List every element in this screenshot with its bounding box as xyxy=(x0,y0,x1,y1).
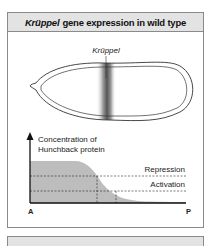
y-axis-arrow-icon xyxy=(27,132,34,140)
y-axis-label-line1: Concentration of xyxy=(38,135,97,144)
kruppel-label: Krüppel xyxy=(92,46,120,55)
y-axis-label-line2: Hunchback protein xyxy=(38,145,105,154)
embryo-illustration xyxy=(30,56,193,126)
activation-label: Activation xyxy=(150,180,185,189)
posterior-label: P xyxy=(186,207,191,216)
repression-label: Repression xyxy=(145,165,185,174)
anterior-label: A xyxy=(28,207,34,216)
